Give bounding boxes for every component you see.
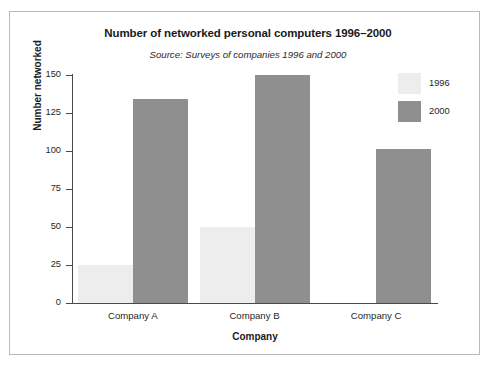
y-axis-tick-label: 100	[45, 145, 61, 155]
y-axis-tick-label: 75	[51, 183, 61, 193]
chart-figure: Number of networked personal computers 1…	[0, 0, 496, 372]
y-axis-tick: 25	[66, 265, 72, 266]
y-axis-tick-mark	[66, 265, 72, 266]
bar-1996-company-a	[78, 265, 133, 303]
y-axis-tick: 0	[66, 303, 72, 304]
legend-item-2000: 2000	[398, 101, 478, 122]
y-axis-tick-label: 150	[45, 69, 61, 79]
y-axis-label: Number networked	[32, 6, 43, 166]
y-axis-tick: 125	[66, 113, 72, 114]
y-axis-tick-mark	[66, 151, 72, 152]
y-axis-tick-mark	[66, 113, 72, 114]
y-axis-tick-mark	[66, 189, 72, 190]
y-axis-tick-mark	[66, 227, 72, 228]
legend-label-1996: 1996	[429, 78, 450, 88]
bar-1996-company-b	[200, 227, 255, 303]
legend-label-2000: 2000	[429, 106, 450, 116]
y-axis-tick-label: 125	[45, 107, 61, 117]
y-axis-tick: 75	[66, 189, 72, 190]
y-axis-line	[72, 74, 73, 304]
chart-title: Number of networked personal computers 1…	[0, 27, 496, 39]
chart-subtitle: Source: Surveys of companies 1996 and 20…	[0, 49, 496, 60]
x-axis-tick-label: Company C	[316, 310, 436, 321]
x-axis-line	[72, 303, 438, 304]
x-axis-label: Company	[72, 331, 438, 342]
y-axis-tick: 50	[66, 227, 72, 228]
y-axis-tick-label: 0	[56, 297, 61, 307]
y-axis-tick-mark	[66, 303, 72, 304]
legend-swatch-2000	[398, 101, 421, 122]
y-axis-tick-mark	[66, 75, 72, 76]
legend-swatch-1996	[398, 73, 421, 94]
bar-2000-company-a	[133, 99, 188, 303]
x-axis-tick-label: Company A	[73, 310, 193, 321]
chart-legend: 1996 2000	[398, 73, 478, 129]
legend-item-1996: 1996	[398, 73, 478, 94]
y-axis-tick: 100	[66, 151, 72, 152]
y-axis-tick-label: 25	[51, 259, 61, 269]
y-axis-tick: 150	[66, 75, 72, 76]
bar-2000-company-b	[255, 75, 310, 303]
y-axis-tick-label: 50	[51, 221, 61, 231]
bar-2000-company-c	[376, 149, 431, 303]
x-axis-tick-label: Company B	[195, 310, 315, 321]
